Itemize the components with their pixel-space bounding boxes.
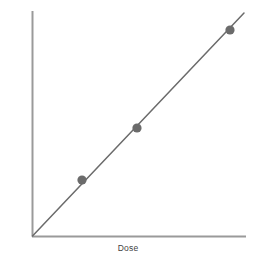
- data-point-marker: [132, 123, 141, 132]
- data-point-marker: [225, 25, 234, 34]
- plot-area: [0, 0, 256, 264]
- x-axis-label: Dose: [0, 244, 256, 253]
- data-point-marker: [77, 175, 86, 184]
- chart-figure: Dose Area under curve: [0, 0, 256, 264]
- plot-background: [0, 0, 256, 264]
